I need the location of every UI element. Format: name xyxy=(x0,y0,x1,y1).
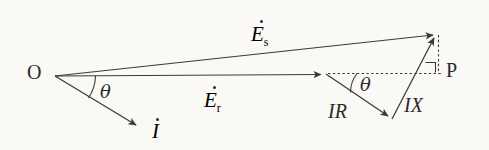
label-vector-i-base: I xyxy=(152,119,159,143)
angle-arc-theta-right xyxy=(351,74,358,93)
label-origin-o: O xyxy=(27,62,41,82)
angle-arc-theta-left xyxy=(89,76,96,98)
label-vector-ir: IR xyxy=(328,101,347,121)
phasor-diagram-figure: O P Es Er I IR IX θ θ xyxy=(0,0,489,150)
label-vector-es-base: E xyxy=(251,22,264,46)
phasor-diagram-canvas xyxy=(0,0,489,150)
label-angle-theta-right: θ xyxy=(360,76,371,94)
label-vector-er-subscript: r xyxy=(217,101,221,115)
right-angle-marker xyxy=(426,63,436,73)
label-angle-theta-left: θ xyxy=(100,83,111,101)
label-vector-er-base: E xyxy=(204,88,217,112)
label-vector-es-subscript: s xyxy=(264,35,269,49)
label-point-p: P xyxy=(446,60,457,80)
label-vector-er: Er xyxy=(204,88,221,113)
vector-i-line xyxy=(55,76,136,125)
label-vector-ix: IX xyxy=(404,95,423,115)
vector-es-line xyxy=(55,35,433,76)
vector-er-line xyxy=(55,75,321,77)
label-vector-i: I xyxy=(152,119,159,144)
label-vector-es: Es xyxy=(251,22,269,47)
